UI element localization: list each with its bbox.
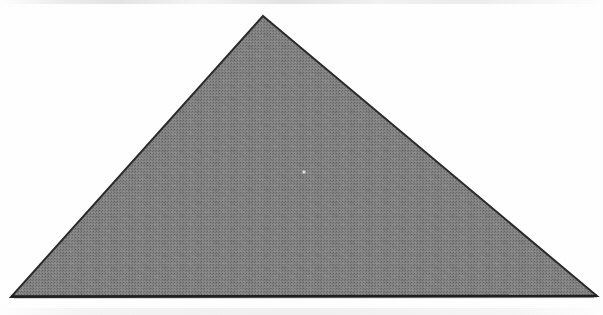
ink-void-speck-icon [302, 170, 306, 174]
triangle-figure-svg [0, 0, 603, 315]
figure-canvas [0, 0, 603, 315]
triangle-base-edge [11, 296, 597, 297]
